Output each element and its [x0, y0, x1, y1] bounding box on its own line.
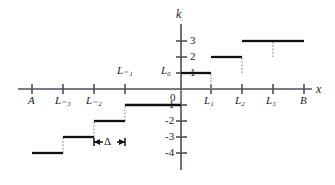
k-tick-label-2: 2: [190, 51, 196, 62]
delta-arrowhead-left: [94, 139, 100, 145]
x-tick-label-L-minus-1: L₋₁: [117, 65, 133, 76]
k-tick-label-minus-4: -4: [165, 147, 174, 158]
x-tick-label-L-3: L₃: [266, 95, 276, 106]
x-tick-label-L-minus-3: L₋₃: [55, 95, 71, 106]
k-tick-label-minus-2: -2: [165, 115, 174, 126]
k-axis-label: k: [176, 8, 181, 20]
x-tick-label-L-1: L₁: [204, 95, 214, 106]
k-tick-label-minus-1: -1: [165, 99, 174, 110]
x-tick-label-L-2: L₂: [235, 95, 245, 106]
x-tick-label-L-minus-2: L₋₂: [86, 95, 102, 106]
x-tick-label-L-0: L₀: [161, 65, 171, 76]
x-axis-label: x: [316, 83, 321, 95]
delta-arrowhead-right: [119, 139, 125, 145]
x-tick-label-B: B: [300, 95, 307, 106]
k-tick-label-1: 1: [190, 67, 196, 78]
delta-label: Δ: [104, 136, 111, 147]
k-tick-label-minus-3: -3: [165, 131, 174, 142]
x-tick-label-A: A: [28, 95, 35, 106]
k-tick-label-3: 3: [190, 35, 196, 46]
